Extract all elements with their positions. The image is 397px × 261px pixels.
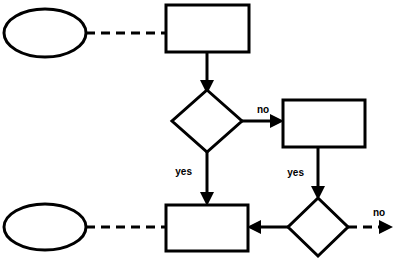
flowchart-diagram: no yes yes no: [0, 0, 397, 261]
node-decision-bottom[interactable]: [288, 198, 348, 256]
node-start-bottom[interactable]: [4, 204, 86, 250]
edge-label-decision-top-no: no: [257, 104, 269, 115]
edge-decision-bottom-to-process-bottom: [247, 220, 288, 234]
flowchart-canvas: no yes yes no: [0, 0, 397, 261]
node-process-right[interactable]: [283, 100, 365, 147]
edge-decision-top-no: no: [242, 104, 284, 128]
edge-decision-bottom-no: no: [348, 207, 393, 234]
edge-decision-top-yes: yes: [175, 152, 214, 206]
arrow-head-right-exit: [379, 220, 393, 234]
edge-process-right-yes: yes: [287, 147, 325, 200]
edge-label-decision-top-yes: yes: [175, 166, 192, 177]
edge-label-decision-bottom-no: no: [373, 207, 385, 218]
node-process-top[interactable]: [166, 5, 249, 52]
edge-label-process-right-yes: yes: [287, 167, 304, 178]
edge-process-top-to-decision-top: [200, 52, 214, 94]
node-process-bottom[interactable]: [166, 205, 248, 251]
node-start-top[interactable]: [4, 9, 86, 57]
node-decision-top[interactable]: [172, 90, 242, 152]
